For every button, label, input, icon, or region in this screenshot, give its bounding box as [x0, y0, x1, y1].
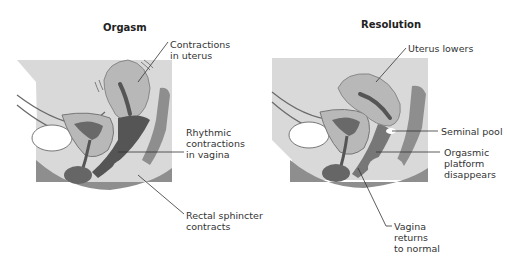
label-uterus-lowers: Uterus lowers [408, 43, 473, 54]
label-seminal-pool: Seminal pool [441, 126, 503, 137]
label-contractions-uterus: Contractions in uterus [170, 39, 230, 61]
label-rectal-sphincter: Rectal sphincter contracts [186, 210, 263, 232]
label-rhythmic-contractions-vagina: Rhythmic contractions in vagina [186, 127, 245, 160]
label-vagina-returns: Vagina returns to normal [394, 221, 440, 254]
orgasm-panel: Orgasm Contractions in uterus [0, 0, 254, 258]
label-orgasmic-platform: Orgasmic platform disappears [444, 147, 496, 180]
resolution-panel: Resolution Uterus lowers Seminal pool Or… [254, 0, 508, 258]
